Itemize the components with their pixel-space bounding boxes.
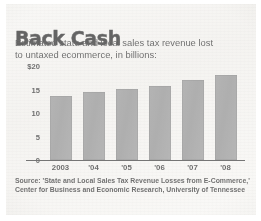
bar-05: [116, 89, 138, 160]
y-tick-label-5: 5: [36, 132, 40, 141]
bar-04: [83, 92, 105, 160]
chart-subtitle: Estimated state and local sales tax reve…: [15, 37, 247, 61]
x-tick-label-08: '08: [220, 163, 231, 172]
plot-area: [44, 66, 242, 160]
newspaper-chart-clipping: Back Cash Estimated state and local sale…: [0, 0, 261, 221]
source-note-line-1: Source: 'State and Local Sales Tax Reven…: [15, 176, 251, 185]
chart-subtitle-line-1: Estimated state and local sales tax reve…: [15, 37, 247, 49]
x-tick-label-2003: 2003: [52, 163, 69, 172]
x-tick-label-04: '04: [88, 163, 99, 172]
source-note-line-2: Center for Business and Economic Researc…: [15, 185, 251, 194]
x-tick-label-07: '07: [187, 163, 198, 172]
scan-edge-bottom: [0, 215, 261, 221]
x-tick-label-06: '06: [154, 163, 165, 172]
bar-2003: [50, 96, 72, 160]
chart-subtitle-line-2: to untaxed ecommerce, in billions:: [15, 49, 247, 61]
scan-edge-left: [0, 0, 6, 221]
y-tick-label-10: 10: [32, 109, 40, 118]
scan-edge-top: [0, 0, 261, 4]
bar-06: [149, 86, 171, 160]
scan-edge-right: [256, 0, 261, 221]
bar-08: [215, 75, 237, 160]
source-note: Source: 'State and Local Sales Tax Reven…: [15, 176, 251, 195]
y-tick-label-20: $20: [27, 62, 40, 71]
x-axis-line: [26, 160, 245, 161]
bar-07: [182, 80, 204, 160]
x-tick-label-05: '05: [121, 163, 132, 172]
y-tick-label-15: 15: [32, 85, 40, 94]
